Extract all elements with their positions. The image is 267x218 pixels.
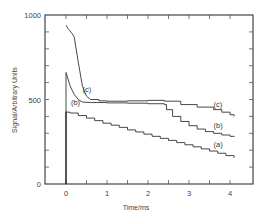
x-tick-label: 2 (146, 189, 150, 198)
chart: 0123405001000 (a)(b)(c)(b)(c) Time/ms Si… (0, 0, 267, 218)
x-tick-label: 4 (228, 189, 232, 198)
y-axis-title: Signal/Arbitrary Units (11, 67, 19, 133)
x-tick-label: 3 (187, 189, 191, 198)
curve-label: (c) (214, 100, 223, 109)
curve-label: (b) (71, 98, 81, 107)
curve-label: (c) (82, 85, 91, 94)
y-tick-label: 0 (37, 180, 41, 189)
x-tick-label: 1 (105, 189, 109, 198)
curves (66, 25, 234, 184)
curve-b (66, 72, 234, 184)
y-tick-label: 500 (28, 96, 41, 105)
y-tick-label: 1000 (24, 11, 41, 20)
curve-label: (b) (214, 121, 224, 130)
x-axis-title: Time/ms (123, 204, 150, 211)
x-tick-label: 0 (64, 189, 68, 198)
curve-a (66, 112, 234, 184)
curve-labels: (a)(b)(c)(b)(c) (71, 85, 223, 149)
curve-label: (a) (214, 140, 224, 149)
